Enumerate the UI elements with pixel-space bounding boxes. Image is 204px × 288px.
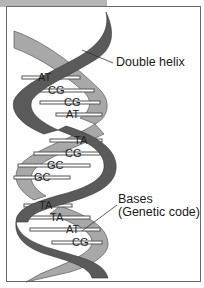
base-pair-label: AT bbox=[66, 223, 80, 235]
base-pair-label: AT bbox=[38, 71, 52, 83]
base-pair-label: CG bbox=[65, 147, 82, 159]
base-pair-label: CG bbox=[72, 236, 89, 248]
base-pair-label: GC bbox=[47, 159, 64, 171]
genetic-code-label: (Genetic code) bbox=[118, 206, 200, 219]
base-pair-label: CG bbox=[48, 84, 65, 96]
base-pair-label: TA bbox=[74, 134, 88, 146]
base-pair-label: TA bbox=[50, 211, 64, 223]
double-helix-label: Double helix bbox=[116, 56, 185, 69]
dna-helix-illustration: AT CG CG AT TA CG GC GC TA TA AT CG bbox=[0, 0, 204, 288]
base-pair-label: GC bbox=[34, 171, 51, 183]
base-pair-label: AT bbox=[66, 108, 80, 120]
base-pair-label: CG bbox=[64, 96, 81, 108]
base-pair-label: TA bbox=[39, 199, 53, 211]
